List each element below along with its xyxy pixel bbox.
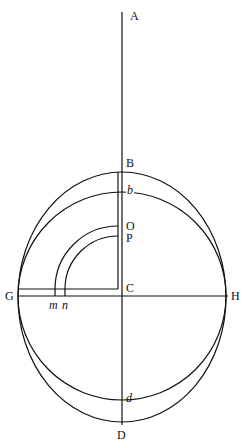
label-n: n	[62, 299, 68, 311]
label-C: C	[126, 282, 134, 294]
label-b: b	[126, 184, 134, 196]
label-d: d	[126, 392, 132, 404]
label-m: m	[49, 299, 58, 311]
label-B: B	[126, 157, 134, 169]
label-P: P	[126, 232, 133, 244]
label-G: G	[5, 290, 14, 302]
label-H: H	[231, 290, 240, 302]
label-A: A	[130, 10, 139, 22]
label-D: D	[117, 429, 126, 441]
geometry-diagram	[0, 0, 250, 446]
